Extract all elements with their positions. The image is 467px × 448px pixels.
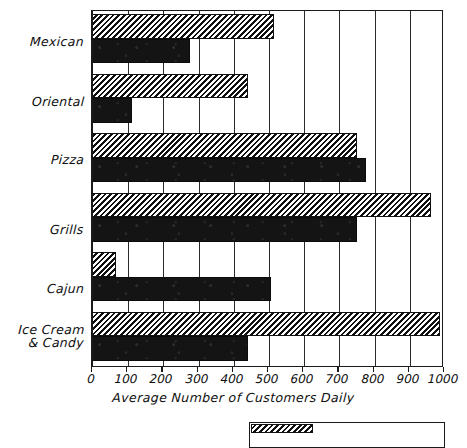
legend <box>249 422 445 448</box>
bar-mexican-solid <box>93 39 190 64</box>
category-label-text: Cajun <box>46 281 84 296</box>
category-axis-labels: Mexican Oriental Pizza Grills Cajun Ice … <box>0 10 88 367</box>
x-tick-label: 500 <box>255 372 279 386</box>
bar-grills-solid <box>93 217 357 242</box>
category-label-ice-cream-candy: Ice Cream & Candy <box>17 323 85 349</box>
x-tick-label: 700 <box>326 372 350 386</box>
category-label-text-line2: & Candy <box>17 336 84 349</box>
category-label-text: Pizza <box>50 152 84 167</box>
x-tick-label: 0 <box>87 372 95 386</box>
bar-oriental-solid <box>93 98 132 123</box>
x-tick-label: 100 <box>114 372 138 386</box>
category-label-grills: Grills <box>50 223 84 236</box>
bar-cajun-hatched <box>93 252 116 277</box>
category-label-pizza: Pizza <box>50 153 84 166</box>
category-label-text: Grills <box>50 222 84 237</box>
bar-pizza-solid <box>93 158 366 183</box>
bar-ice-cream-candy-solid <box>93 336 248 361</box>
x-tick-label: 900 <box>396 372 420 386</box>
x-tick-label: 1000 <box>427 372 458 386</box>
x-tick-label: 300 <box>185 372 209 386</box>
x-tick-label: 400 <box>220 372 244 386</box>
category-label-oriental: Oriental <box>31 95 84 108</box>
x-tick-label: 600 <box>290 372 314 386</box>
bar-mexican-hatched <box>93 14 274 39</box>
x-tick-label: 800 <box>361 372 385 386</box>
x-tick-label: 200 <box>150 372 174 386</box>
plot-area <box>91 10 443 367</box>
bar-pizza-hatched <box>93 133 357 158</box>
category-label-mexican: Mexican <box>30 35 85 48</box>
bar-ice-cream-candy-hatched <box>93 312 440 337</box>
bar-grills-hatched <box>93 193 431 218</box>
bar-oriental-hatched <box>93 74 248 99</box>
legend-swatch-hatched <box>251 424 313 433</box>
category-label-text: Mexican <box>30 34 85 49</box>
category-label-cajun: Cajun <box>46 282 84 295</box>
x-axis-title: Average Number of Customers Daily <box>0 390 467 405</box>
bar-cajun-solid <box>93 277 271 302</box>
category-label-text: Oriental <box>31 94 84 109</box>
x-axis-tick-labels: 01002003004005006007008009001000 <box>0 372 467 388</box>
